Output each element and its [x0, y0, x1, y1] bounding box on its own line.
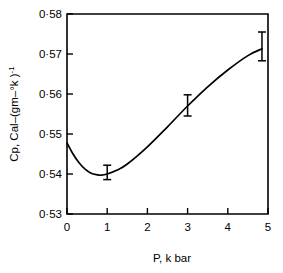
y-tick-label-2: 0·55 — [39, 128, 62, 140]
x-tick-label-1: 1 — [104, 221, 110, 233]
x-tick-label-2: 2 — [144, 221, 150, 233]
x-tick-label-3: 3 — [184, 221, 190, 233]
y-tick-label-5: 0·58 — [39, 8, 62, 20]
y-axis-title: Cp, Cal–(gm–°k )-1 — [7, 66, 20, 162]
x-axis-title: P, k bar — [153, 252, 191, 264]
x-tick-label-5: 5 — [265, 221, 271, 233]
cp-vs-pressure-chart: 0·53 0·54 0·55 0·56 0·57 0·58 0 1 2 3 4 … — [0, 0, 283, 273]
y-axis-title-exponent: -1 — [7, 66, 16, 74]
y-tick-label-4: 0·57 — [39, 48, 62, 60]
y-tick-label-1: 0·54 — [39, 168, 63, 180]
chart-figure: 0·53 0·54 0·55 0·56 0·57 0·58 0 1 2 3 4 … — [0, 0, 283, 273]
y-tick-label-3: 0·56 — [39, 88, 62, 100]
y-axis-title-main: Cp, Cal–(gm–°k ) — [8, 73, 20, 161]
y-tick-label-0: 0·53 — [39, 208, 62, 220]
x-tick-label-0: 0 — [64, 221, 70, 233]
y-axis-title-group: Cp, Cal–(gm–°k )-1 — [7, 66, 20, 162]
x-tick-label-4: 4 — [225, 221, 232, 233]
